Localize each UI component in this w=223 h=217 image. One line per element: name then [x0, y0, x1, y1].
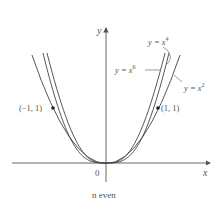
origin-label: 0 — [95, 168, 100, 178]
label-x4: y = x4 — [147, 36, 169, 47]
power-functions-diagram: y x 0 (−1, 1) (1, 1) y = x4 y = x6 y = x… — [0, 0, 223, 217]
leader-x2 — [174, 75, 182, 82]
point-1-1 — [156, 106, 160, 110]
label-x6: y = x6 — [114, 64, 136, 75]
point-neg1-1-label: (−1, 1) — [19, 103, 42, 113]
point-1-1-label: (1, 1) — [161, 103, 180, 113]
caption: n even — [92, 190, 116, 200]
x-axis-label: x — [202, 167, 208, 178]
y-axis-label: y — [96, 25, 102, 36]
point-neg1-1 — [51, 106, 55, 110]
label-x2: y = x2 — [183, 82, 205, 93]
